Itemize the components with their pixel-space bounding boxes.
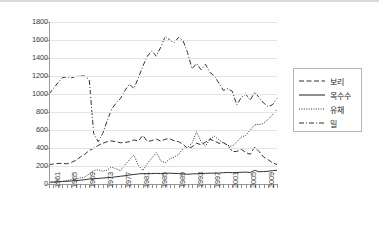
series-lines bbox=[49, 22, 277, 184]
x-tick-label: 2009 bbox=[267, 172, 276, 188]
x-tick-label: 1985 bbox=[160, 172, 169, 188]
gridline bbox=[49, 76, 277, 77]
line-chart: 020040060080010001200140016001800 196119… bbox=[0, 0, 379, 228]
y-axis-line bbox=[49, 22, 50, 185]
gridline bbox=[49, 58, 277, 59]
legend-item: 보리 bbox=[299, 75, 361, 87]
x-tick-label: 1969 bbox=[88, 172, 97, 188]
x-axis-labels: 1961196519691973197719811985198919931997… bbox=[0, 186, 379, 228]
x-tick-label: 1981 bbox=[142, 172, 151, 188]
legend-item: 밀 bbox=[299, 117, 361, 129]
legend-line-swatch-dashdot bbox=[299, 118, 325, 128]
y-tick-label: 800 bbox=[8, 107, 48, 116]
y-tick-label: 1200 bbox=[8, 71, 48, 80]
y-tick-label: 1800 bbox=[8, 17, 48, 26]
legend-label: 옥수수 bbox=[330, 90, 350, 101]
legend-line-swatch-dashed bbox=[299, 76, 325, 86]
gridline bbox=[49, 94, 277, 95]
y-tick-label: 400 bbox=[8, 143, 48, 152]
gridline bbox=[49, 166, 277, 167]
chart-legend: 보리옥수수유채밀 bbox=[293, 68, 362, 132]
series-line bbox=[49, 135, 277, 164]
x-tick-label: 1961 bbox=[53, 172, 62, 188]
legend-item: 유채 bbox=[299, 103, 361, 115]
x-tick-label: 1965 bbox=[70, 172, 79, 188]
x-tick-label: 1997 bbox=[213, 172, 222, 188]
x-tick-label: 1993 bbox=[196, 172, 205, 188]
legend-label: 보리 bbox=[330, 76, 344, 87]
y-tick-label: 1400 bbox=[8, 53, 48, 62]
plot-area bbox=[49, 22, 277, 184]
gridline bbox=[49, 130, 277, 131]
y-tick-label: 1000 bbox=[8, 89, 48, 98]
series-line bbox=[49, 36, 277, 141]
legend-line-swatch-solid bbox=[299, 90, 325, 100]
x-tick-label: 2005 bbox=[249, 172, 258, 188]
gridline bbox=[49, 22, 277, 23]
y-tick-label: 1600 bbox=[8, 35, 48, 44]
y-tick-label: 200 bbox=[8, 161, 48, 170]
legend-label: 밀 bbox=[330, 118, 337, 129]
x-tick-label: 1989 bbox=[178, 172, 187, 188]
gridline bbox=[49, 148, 277, 149]
x-tick-label: 1977 bbox=[124, 172, 133, 188]
gridline bbox=[49, 40, 277, 41]
gridline bbox=[49, 112, 277, 113]
legend-line-swatch-dotted bbox=[299, 104, 325, 114]
y-tick-label: 600 bbox=[8, 125, 48, 134]
legend-label: 유채 bbox=[330, 104, 344, 115]
x-tick-label: 2001 bbox=[231, 172, 240, 188]
legend-item: 옥수수 bbox=[299, 89, 361, 101]
x-tick-label: 1973 bbox=[106, 172, 115, 188]
